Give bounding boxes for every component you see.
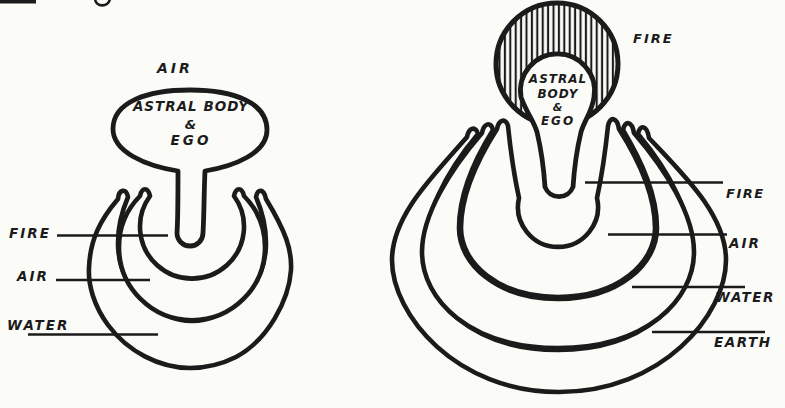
right-title-fire: FIRE	[633, 32, 674, 45]
left-core-line-2: &	[116, 118, 266, 131]
right-core-line-3: &	[515, 102, 601, 113]
scanned-page: AIR ASTRAL BODY & EGO FIRE AIR WATER FIR…	[0, 0, 785, 408]
diagram-canvas	[0, 0, 785, 408]
left-label-water: WATER	[7, 319, 69, 333]
right-label-earth: EARTH	[714, 336, 771, 350]
right-label-water: WATER	[715, 291, 775, 305]
left-core-line-3: EGO	[116, 134, 266, 148]
right-core-text: ASTRAL BODY & EGO	[515, 73, 601, 127]
left-label-fire: FIRE	[9, 227, 51, 241]
right-label-air: AIR	[729, 237, 761, 251]
left-label-air: AIR	[17, 270, 49, 284]
left-core-text: ASTRAL BODY & EGO	[116, 100, 266, 147]
right-label-fire: FIRE	[726, 187, 765, 200]
right-core-line-1: ASTRAL	[515, 73, 601, 85]
cropped-text-remnant	[95, 0, 110, 5]
left-title-air: AIR	[157, 61, 193, 75]
right-figure	[392, 3, 765, 392]
left-core-line-1: ASTRAL BODY	[116, 100, 266, 114]
right-core-line-2: BODY	[515, 88, 601, 100]
right-core-line-4: EGO	[515, 115, 601, 127]
